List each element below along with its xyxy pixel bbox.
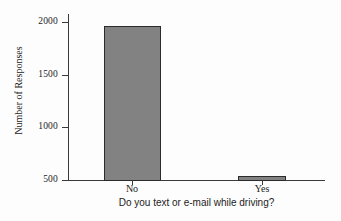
bar-chart: 2000 1500 1000 500 No Yes Number of Resp…: [0, 0, 341, 221]
y-tick-mark-500: [62, 180, 68, 181]
y-tick-label-500: 500: [24, 174, 58, 184]
y-axis-line: [68, 14, 69, 181]
x-tick-label-no: No: [97, 183, 167, 194]
y-axis-title: Number of Responses: [13, 26, 24, 156]
x-tick-label-yes: Yes: [227, 183, 297, 194]
x-axis-title: Do you text or e-mail while driving?: [68, 197, 325, 208]
y-tick-label-1000: 1000: [24, 121, 58, 131]
y-tick-mark-1500: [62, 75, 68, 76]
y-tick-mark-1000: [62, 127, 68, 128]
bar-no: [104, 26, 161, 181]
y-tick-mark-2000: [62, 22, 68, 23]
y-tick-label-1500: 1500: [24, 69, 58, 79]
y-tick-label-2000: 2000: [24, 16, 58, 26]
